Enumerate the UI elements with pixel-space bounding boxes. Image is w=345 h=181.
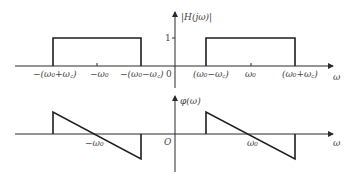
phase-plot: φ(ω) O ω −ω₀ ω₀ (15, 96, 341, 172)
phase-tick-label-neg-w0: −ω₀ (85, 138, 104, 148)
magnitude-y-label: |H(jω)| (181, 12, 212, 23)
negative-phase-segment (53, 112, 141, 159)
tick-label-w0: ω₀ (245, 69, 256, 79)
level-label: 1 (165, 33, 171, 43)
phase-x-label: ω (333, 138, 341, 148)
negative-passband-rect (53, 38, 141, 66)
tick-label-neg-w0-minus-wc: −(ω₀−ω꜀) (120, 69, 164, 79)
tick-label-w0-plus-wc: (ω₀+ω꜀) (282, 69, 318, 79)
bandpass-filter-diagram: |H(jω)| 1 0 ω −(ω₀+ω꜀) −ω₀ −(ω₀−ω꜀) (ω₀−… (0, 0, 345, 181)
phase-y-label: φ(ω) (180, 96, 201, 106)
tick-label-neg-w0-plus-wc: −(ω₀+ω꜀) (33, 69, 77, 79)
phase-origin-label: O (164, 137, 172, 147)
tick-label-w0-minus-wc: (ω₀−ω꜀) (193, 69, 229, 79)
positive-passband-rect (206, 38, 295, 66)
magnitude-plot: |H(jω)| 1 0 ω −(ω₀+ω꜀) −ω₀ −(ω₀−ω꜀) (ω₀−… (15, 12, 341, 88)
positive-phase-segment (206, 112, 295, 159)
tick-label-neg-w0: −ω₀ (90, 69, 109, 79)
phase-tick-label-w0: ω₀ (247, 138, 258, 148)
magnitude-origin-label: 0 (166, 69, 172, 79)
magnitude-x-label: ω (333, 72, 341, 82)
